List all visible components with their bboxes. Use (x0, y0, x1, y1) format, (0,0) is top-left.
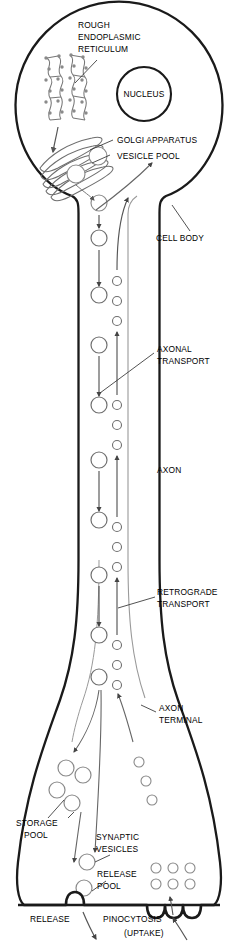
retrograde-vesicle (113, 563, 122, 572)
axon-label: AXON (157, 465, 181, 475)
retrograde-vesicle (113, 277, 122, 286)
uptake-vesicle (147, 795, 157, 805)
pinocytosis-vesicle (168, 863, 178, 873)
storage-pool-vesicle (64, 795, 80, 811)
axonal-transport-label-line1: AXONAL (157, 344, 192, 354)
anterograde-vesicle (91, 337, 107, 353)
synaptic-vesicle (79, 854, 95, 870)
release-label: RELEASE (30, 914, 70, 924)
retrograde-vesicle (113, 641, 122, 650)
anterograde-vesicle (91, 287, 107, 303)
neuron-diagram-canvas: NUCLEUS (0, 0, 238, 943)
anterograde-vesicle (91, 230, 107, 246)
uptake-vesicle (141, 776, 151, 786)
axonal-transport-label-line2: TRANSPORT (157, 356, 210, 366)
pinocytosis-vesicle (151, 863, 161, 873)
anterograde-vesicle (91, 669, 107, 685)
anterograde-vesicle (91, 627, 107, 643)
retrograde-label-line1: RETROGRADE (157, 587, 218, 597)
anterograde-vesicle (91, 397, 107, 413)
retrograde-vesicle (113, 401, 122, 410)
retrograde-vesicle (113, 681, 122, 690)
cell-body-leader (172, 205, 190, 231)
pinocytosis-vesicle (185, 863, 195, 873)
nucleus-label: NUCLEUS (123, 89, 164, 99)
rough-er-label-line1: ROUGH (78, 20, 110, 30)
vesicle-pool-circle-2 (67, 165, 85, 183)
axon-terminal-label-line1: AXON (159, 703, 183, 713)
storage-pool-label-line1: STORAGE (16, 818, 58, 828)
storage-pool-vesicle (49, 782, 65, 798)
rough-er-label-line2: ENDOPLASMIC (78, 32, 141, 42)
vesicle-pool-label: VESICLE POOL (117, 151, 180, 161)
storage-pool-vesicle (75, 767, 91, 783)
storage-pool-vesicle (58, 760, 74, 776)
golgi-label: GOLGI APPARATUS (117, 135, 197, 145)
retrograde-vesicle (113, 297, 122, 306)
anterograde-vesicle (91, 452, 107, 468)
release-direction-arrow (83, 912, 96, 939)
nucleus: NUCLEUS (117, 67, 171, 121)
pinocytosis-vesicle (151, 879, 161, 889)
retrograde-vesicle (113, 441, 122, 450)
anterograde-vesicle (91, 512, 107, 528)
release-pool-label-line2: POOL (97, 881, 121, 891)
synaptic-vesicles-label-line2: VESICLES (96, 844, 138, 854)
uptake-vesicle (134, 757, 144, 767)
pinocytosis-vesicle (185, 879, 195, 889)
pinocytosis-label-line2: (UPTAKE) (124, 928, 164, 938)
axon-terminal-label-line2: TERMINAL (159, 715, 203, 725)
retrograde-vesicle (113, 317, 122, 326)
pinocytosis-label-line1: PINOCYTOSIS (103, 914, 162, 924)
pinocytosis-vesicle (168, 879, 178, 889)
retrograde-vesicle (113, 661, 122, 670)
uptake-direction-arrow (173, 918, 187, 940)
cell-body-label: CELL BODY (156, 233, 204, 243)
neuron-diagram-figure: NUCLEUS (0, 0, 238, 943)
retrograde-label-line2: TRANSPORT (157, 599, 210, 609)
anterograde-vesicle (91, 567, 107, 583)
retrograde-vesicle (113, 523, 122, 532)
rough-er-label-line3: RETICULUM (78, 44, 128, 54)
storage-pool-label-line2: POOL (24, 830, 48, 840)
retrograde-vesicle (113, 543, 122, 552)
retrograde-vesicle (113, 421, 122, 430)
release-pool-label-line1: RELEASE (97, 869, 137, 879)
synaptic-vesicles-label-line1: SYNAPTIC (96, 832, 139, 842)
